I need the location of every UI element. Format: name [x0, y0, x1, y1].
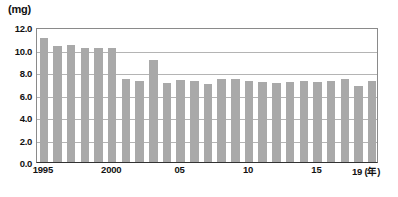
y-axis-tick-label: 6.0 [20, 90, 32, 101]
bar [67, 45, 75, 162]
bar [40, 38, 48, 162]
bar [354, 86, 362, 163]
bar [190, 81, 198, 162]
bar [204, 84, 212, 162]
bar [94, 48, 102, 162]
y-axis-tick-label: 8.0 [20, 68, 32, 79]
x-axis-tick-label: 1995 [33, 164, 53, 175]
bar [217, 79, 225, 162]
bar [313, 82, 321, 162]
bar [272, 83, 280, 162]
y-axis-tick-label: 10.0 [15, 45, 32, 56]
bar [81, 48, 89, 162]
bar [176, 80, 184, 162]
bar-chart: (mg) 12.010.08.06.04.02.00.0 19952000051… [0, 0, 398, 197]
bar [368, 81, 376, 162]
bar [163, 83, 171, 162]
x-axis-tick-label: 19 (年) [352, 164, 380, 178]
bar [135, 81, 143, 162]
figure-caption [10, 187, 398, 196]
bar-series [37, 29, 377, 162]
x-axis-tick-label: 15 [311, 164, 321, 175]
bar [300, 81, 308, 162]
plot-area [36, 28, 378, 163]
bar [258, 82, 266, 162]
x-axis-tick-label: 2000 [101, 164, 121, 175]
x-axis-tick-labels: 1995200005101519 (年) [0, 164, 398, 184]
bar [341, 79, 349, 162]
y-axis-tick-label: 4.0 [20, 113, 32, 124]
bar [122, 79, 130, 162]
bar [149, 60, 157, 162]
y-axis-tick-label: 12.0 [15, 23, 32, 34]
bar [108, 48, 116, 162]
bar [286, 82, 294, 162]
x-axis-tick-label: 05 [175, 164, 185, 175]
x-axis-tick-label: 10 [243, 164, 253, 175]
y-axis-tick-label: 2.0 [20, 135, 32, 146]
bar [231, 79, 239, 162]
bar [53, 46, 61, 162]
bar [327, 81, 335, 162]
bar [245, 81, 253, 162]
